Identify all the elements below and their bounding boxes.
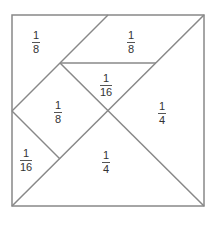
numerator: 1 bbox=[127, 30, 135, 43]
anti-diagonal bbox=[60, 63, 204, 206]
label-bottom-left-triangle: 1 16 bbox=[16, 148, 36, 173]
denominator: 4 bbox=[152, 114, 172, 126]
label-top-left: 1 8 bbox=[26, 30, 46, 55]
label-right-triangle: 1 4 bbox=[152, 101, 172, 126]
denominator: 4 bbox=[96, 163, 116, 175]
label-left-square: 1 8 bbox=[48, 100, 68, 125]
numerator: 1 bbox=[102, 150, 110, 163]
label-top-right-parallelogram: 1 8 bbox=[121, 30, 141, 55]
label-bottom-triangle: 1 4 bbox=[96, 150, 116, 175]
numerator: 1 bbox=[20, 148, 32, 161]
denominator: 8 bbox=[121, 43, 141, 55]
numerator: 1 bbox=[54, 100, 62, 113]
denominator: 8 bbox=[48, 113, 68, 125]
numerator: 1 bbox=[100, 73, 112, 86]
denominator: 16 bbox=[16, 161, 36, 173]
denominator: 16 bbox=[96, 86, 116, 98]
label-center-top-triangle: 1 16 bbox=[96, 73, 116, 98]
numerator: 1 bbox=[32, 30, 40, 43]
numerator: 1 bbox=[158, 101, 166, 114]
denominator: 8 bbox=[26, 43, 46, 55]
